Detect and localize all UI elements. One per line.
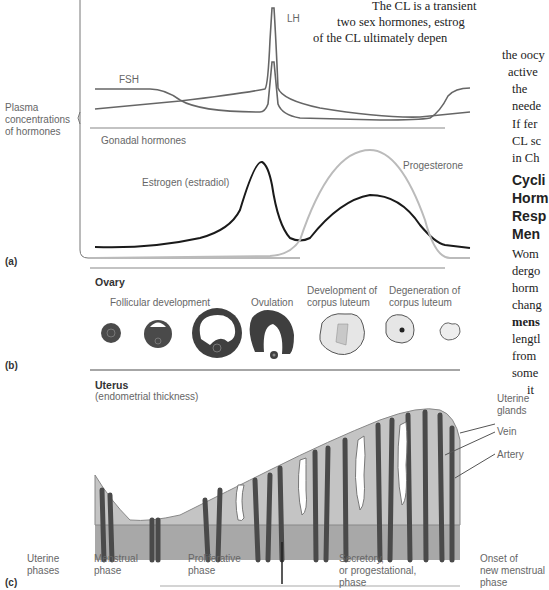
- uterine-phases-label-2: phases: [27, 565, 59, 577]
- book-line-3: of the CL ultimately depen: [313, 30, 447, 46]
- uterus-subtitle: (endometrial thickness): [95, 391, 198, 403]
- book-line-1: The CL is a transient: [372, 0, 476, 14]
- phase-proliferative-1: Proliferative: [188, 553, 241, 565]
- corpus-luteum-degenerating: [386, 315, 414, 343]
- corpus-albicans: [440, 323, 460, 340]
- book-line-5: active: [508, 64, 538, 80]
- phase-onset-3: phase: [480, 577, 507, 589]
- estrogen-label: Estrogen (estradiol): [142, 177, 229, 189]
- section-heading-2: Horm: [512, 189, 549, 207]
- panel-c-letter: (c): [5, 577, 17, 588]
- plasma-label-3: of hormones: [5, 126, 61, 138]
- ovulation-follicle: [250, 310, 294, 359]
- book-line-9: CL sc: [512, 133, 541, 149]
- stage-cl-deg-1: Degeneration of: [389, 285, 460, 297]
- phase-secretory-1: Secretory,: [339, 553, 384, 565]
- panel-a-bracket: [80, 0, 300, 258]
- phase-onset-1: Onset of: [480, 553, 518, 565]
- section-heading-1: Cycli: [512, 171, 545, 189]
- endometrium: [95, 409, 460, 560]
- callout-artery-line: [455, 454, 495, 478]
- callout-uterine: Uterine: [497, 393, 529, 405]
- callout-artery: Artery: [497, 449, 524, 461]
- body2-line-4: chang: [512, 297, 542, 313]
- uterus-title: Uterus: [95, 379, 128, 391]
- section-heading-3: Resp: [512, 207, 546, 225]
- book-line-2: two sex hormones, estrog: [337, 14, 465, 30]
- callout-glands: glands: [497, 405, 526, 417]
- ovary-title: Ovary: [95, 276, 125, 288]
- plasma-label-2: concentrations: [5, 114, 70, 126]
- plasma-label-1: Plasma: [5, 102, 38, 114]
- section-heading-4: Men: [512, 225, 540, 243]
- stage-ovulation: Ovulation: [251, 297, 293, 309]
- phase-menstrual-2: phase: [94, 565, 121, 577]
- stage-cl-dev-2: corpus luteum: [307, 297, 370, 309]
- body2-line-5: mens: [512, 314, 540, 330]
- follicle-secondary: [144, 320, 172, 348]
- book-line-6: the: [512, 81, 527, 97]
- panel-b-letter: (b): [5, 360, 18, 371]
- body2-line-7: from: [512, 348, 536, 364]
- phase-secretory-3: phase: [339, 577, 366, 589]
- panel-a-letter: (a): [5, 256, 17, 267]
- follicle-graafian: [192, 308, 242, 358]
- stage-follicular: Follicular development: [110, 297, 210, 309]
- gonadal-hormones-title: Gonadal hormones: [101, 135, 186, 147]
- body2-line-1: Wom: [512, 246, 539, 262]
- body2-line-6: lengtl: [512, 331, 540, 347]
- uterine-phases-label-1: Uterine: [27, 553, 59, 565]
- progesterone-label: Progesterone: [403, 160, 463, 172]
- stage-cl-deg-2: corpus luteum: [389, 297, 452, 309]
- phase-onset-2: new menstrual: [480, 565, 545, 577]
- corpus-luteum-developing: [320, 314, 365, 355]
- body2-line-2: dergo: [512, 263, 540, 279]
- book-line-10: in Ch: [512, 150, 539, 166]
- callout-vein: Vein: [497, 426, 516, 438]
- fsh-label: FSH: [119, 74, 139, 86]
- callout-glands-line: [460, 424, 495, 433]
- phase-secretory-2: or progestational,: [339, 565, 416, 577]
- lh-label: LH: [287, 13, 300, 25]
- book-line-7: neede: [512, 98, 541, 114]
- book-line-8: If fer: [512, 116, 537, 132]
- fsh-curve: [95, 62, 470, 120]
- estrogen-curve: [95, 162, 470, 248]
- body2-line-8: some: [512, 365, 538, 381]
- book-line-4: the oocy: [502, 47, 545, 63]
- stage-cl-dev-1: Development of: [307, 285, 377, 297]
- follicle-primary: [101, 323, 121, 343]
- phase-menstrual-1: Menstrual: [94, 553, 138, 565]
- phase-proliferative-2: phase: [188, 565, 215, 577]
- body2-line-3: horm: [512, 280, 538, 296]
